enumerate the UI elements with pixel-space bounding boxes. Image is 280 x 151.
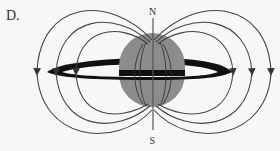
ring (47, 33, 232, 80)
north-label: N (149, 6, 156, 17)
south-label: S (150, 135, 156, 146)
magnetic-field-diagram: D. N S (0, 0, 280, 151)
option-label: D. (6, 8, 20, 23)
